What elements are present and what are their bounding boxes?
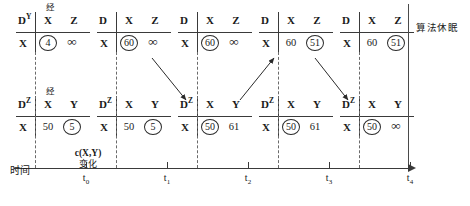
column-header-2: Y: [226, 99, 246, 110]
column-header-2: Y: [307, 99, 327, 110]
axis-tick-label: t3: [316, 172, 342, 184]
table-cell: 61: [222, 119, 246, 135]
cell-value: 61: [229, 120, 240, 134]
column-header-1: X: [281, 99, 301, 110]
axis-tick: [167, 162, 168, 168]
row-header: X: [181, 38, 189, 49]
table-corner-label: D: [99, 15, 107, 26]
right-separator-rule: [408, 4, 409, 168]
table-corner-label: D: [342, 15, 350, 26]
row-header: X: [262, 38, 270, 49]
tick-subscript: 1: [167, 178, 171, 186]
table-horizontal-rule: [178, 116, 252, 117]
cell-value: ∞: [148, 35, 157, 49]
table-cell: 5: [141, 119, 165, 135]
tick-subscript: 0: [86, 178, 90, 186]
state-table-bottom-2: DZ X Y X 50 61: [178, 96, 252, 142]
column-header-2: Z: [307, 15, 327, 26]
jing-label: 经: [46, 87, 55, 96]
table-corner-label: DZ: [180, 99, 193, 110]
row-header: X: [181, 122, 189, 133]
cell-value: 50: [282, 119, 300, 135]
table-cell: 51: [303, 35, 327, 51]
state-table-bottom-3: DZ X Y X 50 61: [259, 96, 333, 142]
column-header-1: X: [362, 99, 382, 110]
cell-value: 50: [201, 119, 219, 135]
axis-tick: [410, 162, 411, 168]
column-header-1: X: [200, 15, 220, 26]
table-corner-label: DZ: [261, 99, 274, 110]
table-corner-label: DZ: [342, 99, 355, 110]
table-cell: ∞: [222, 35, 246, 51]
cell-value: 51: [306, 35, 324, 51]
table-corner-label: D: [261, 15, 269, 26]
axis-tick: [86, 162, 87, 168]
cell-value: 60: [120, 35, 138, 51]
column-header-1: X: [119, 99, 139, 110]
table-cell: 50: [36, 119, 60, 135]
axis-tick-label: t2: [235, 172, 261, 184]
table-cell: 4: [36, 35, 60, 51]
row-header: X: [262, 122, 270, 133]
table-cell: 5: [60, 119, 84, 135]
column-header-2: Z: [388, 15, 408, 26]
axis-tick: [329, 162, 330, 168]
column-header-1: X: [119, 15, 139, 26]
cell-value: 60: [367, 36, 378, 50]
state-table-bottom-4: DZ X Y X 50 ∞: [340, 96, 414, 142]
axis-tick: [248, 162, 249, 168]
table-cell: 61: [303, 119, 327, 135]
table-horizontal-rule: [16, 116, 90, 117]
table-horizontal-rule: [97, 116, 171, 117]
cxy-change-annotation: c(X,Y) 变化: [56, 148, 120, 169]
cell-value: ∞: [67, 35, 76, 49]
table-corner-label: DZ: [99, 99, 112, 110]
cell-value: 50: [363, 119, 381, 135]
table-corner-label: DY: [18, 15, 31, 26]
table-cell: ∞: [60, 35, 84, 51]
table-cell: 50: [279, 119, 303, 135]
cxy-change-text: 变化: [56, 159, 120, 170]
table-horizontal-rule: [16, 32, 90, 33]
state-table-top-1: D X Z X 60 ∞: [97, 12, 171, 58]
table-cell: 51: [384, 35, 408, 51]
row-header: X: [343, 122, 351, 133]
column-header-1: X: [362, 15, 382, 26]
table-cell: 50: [198, 119, 222, 135]
column-header-2: Y: [388, 99, 408, 110]
cell-value: 50: [43, 120, 54, 134]
timeline-dropper: [359, 52, 360, 168]
table-horizontal-rule: [178, 32, 252, 33]
cell-value: 5: [63, 119, 81, 135]
tick-subscript: 4: [410, 178, 414, 186]
axis-tick-label: t4: [397, 172, 423, 184]
jing-label: 经: [46, 3, 55, 12]
table-cell: ∞: [141, 35, 165, 51]
cell-value: 60: [201, 35, 219, 51]
cxy-expression: c(X,Y): [56, 148, 120, 159]
table-horizontal-rule: [340, 116, 414, 117]
state-table-top-4: D X Z X 60 51: [340, 12, 414, 58]
figure-canvas: 经 DY X Z X 4 ∞ D X Z X 60 ∞ D X Z X 60 ∞…: [0, 0, 470, 206]
column-header-2: Z: [226, 15, 246, 26]
row-header: X: [100, 38, 108, 49]
row-header: X: [19, 122, 27, 133]
time-axis-label: 时间: [10, 162, 30, 177]
algorithm-dormancy-label: 算法休眠: [416, 20, 458, 34]
table-cell: 60: [360, 35, 384, 51]
table-cell: 60: [198, 35, 222, 51]
state-table-bottom-1: DZ X Y X 50 5: [97, 96, 171, 142]
column-header-2: Z: [64, 15, 84, 26]
timeline-dropper: [35, 52, 36, 168]
cell-value: ∞: [229, 35, 238, 49]
tick-subscript: 2: [248, 178, 252, 186]
table-horizontal-rule: [340, 32, 414, 33]
table-horizontal-rule: [97, 32, 171, 33]
table-cell: 60: [279, 35, 303, 51]
cell-value: 61: [310, 120, 321, 134]
table-cell: 50: [117, 119, 141, 135]
row-header: X: [100, 122, 108, 133]
table-horizontal-rule: [259, 116, 333, 117]
column-header-2: Y: [64, 99, 84, 110]
column-header-2: Y: [145, 99, 165, 110]
